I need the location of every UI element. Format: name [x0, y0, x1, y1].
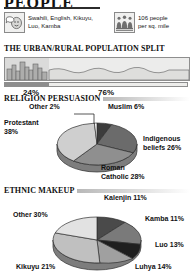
ethnic-label-kalenjin: Kalenjin 11% — [104, 194, 147, 203]
title-underline — [4, 7, 100, 9]
ethnic-label-kamba: Kamba 11% — [145, 215, 184, 224]
people-group-icon — [114, 12, 135, 33]
urban-rural-chart: 24% 76% — [4, 57, 190, 99]
section-title-urban-rural: THE URBAN/RURAL POPULATION SPLIT — [4, 44, 165, 53]
section-ethnic: ETHNIC MAKEUP — [4, 186, 190, 195]
section-rule-ethnic — [77, 189, 190, 193]
section-urban-rural: THE URBAN/RURAL POPULATION SPLIT — [4, 44, 190, 53]
religion-label-indigenous: Indigenous beliefs 26% — [143, 135, 181, 152]
religion-pie-chart: Other 2% Muslim 6% Protestant 38% Indige… — [0, 104, 194, 182]
fact-languages-text: Swahili, English, Kikuyu, Luo, Kamba — [28, 15, 93, 30]
religion-label-other: Other 2% — [29, 103, 60, 112]
urban-rural-illustration — [4, 57, 190, 81]
ethnic-pie-chart: Kalenjin 11% Other 30% Kamba 11% Luo 13%… — [0, 196, 194, 280]
section-title-ethnic: ETHNIC MAKEUP — [4, 186, 74, 195]
ethnic-label-luhya: Luhya 14% — [135, 263, 172, 272]
religion-label-roman-catholic: Roman Catholic 28% — [101, 164, 145, 181]
religion-label-muslim: Muslim 6% — [108, 103, 144, 112]
section-religion: RELIGION PERSUASION — [4, 94, 190, 103]
fact-population-density: 106 people per sq. mile — [114, 12, 169, 33]
speech-face-icon — [4, 12, 25, 33]
ethnic-label-other: Other 30% — [13, 211, 48, 220]
page-title: PEOPLE — [4, 0, 74, 12]
religion-label-protestant: Protestant 38% — [4, 119, 39, 136]
urban-rural-bar — [4, 82, 188, 87]
section-title-religion: RELIGION PERSUASION — [4, 94, 100, 103]
people-infographic: PEOPLE Swahili, English, Kikuyu, Luo, Ka… — [0, 0, 194, 280]
ethnic-label-luo: Luo 13% — [155, 241, 184, 250]
ethnic-label-kikuyu: Kikuyu 21% — [16, 263, 55, 272]
fact-density-text: 106 people per sq. mile — [138, 15, 169, 30]
section-rule-religion — [103, 97, 190, 101]
fact-row: Swahili, English, Kikuyu, Luo, Kamba 106… — [4, 12, 192, 36]
fact-languages: Swahili, English, Kikuyu, Luo, Kamba — [4, 12, 93, 33]
urban-bar-fill — [5, 83, 49, 86]
